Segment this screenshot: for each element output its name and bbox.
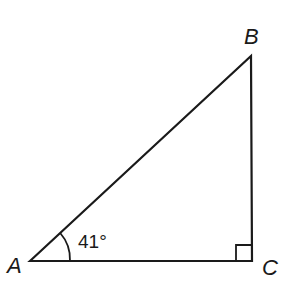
angle-a-label: 41° bbox=[78, 231, 107, 252]
triangle-abc bbox=[30, 56, 252, 261]
vertex-label-b: B bbox=[244, 24, 259, 49]
angle-a-arc bbox=[60, 233, 70, 261]
vertex-label-c: C bbox=[262, 255, 278, 280]
right-angle-marker bbox=[236, 245, 252, 261]
triangle-diagram: A B C 41° bbox=[0, 0, 299, 290]
vertex-label-a: A bbox=[5, 253, 22, 278]
